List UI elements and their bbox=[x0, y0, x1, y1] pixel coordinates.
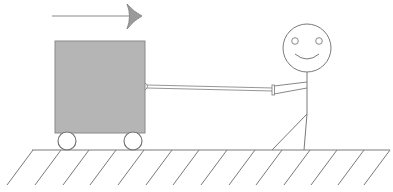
hand bbox=[272, 85, 275, 95]
diagram-canvas bbox=[0, 0, 393, 192]
wheel-right bbox=[124, 132, 142, 150]
box bbox=[55, 41, 145, 133]
leg-right bbox=[304, 114, 307, 150]
stick-figure bbox=[272, 24, 331, 150]
ground bbox=[7, 150, 390, 185]
wheels bbox=[58, 132, 142, 150]
rope bbox=[145, 83, 273, 91]
wheel-left bbox=[58, 132, 76, 150]
leg-left bbox=[272, 114, 307, 150]
direction-arrow-icon bbox=[52, 4, 142, 29]
head bbox=[283, 24, 331, 72]
